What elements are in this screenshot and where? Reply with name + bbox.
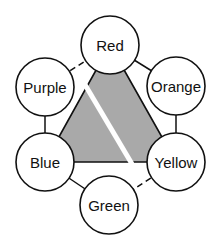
color-wheel-diagram: RedOrangeYellowGreenBluePurple: [0, 0, 216, 247]
node-label-orange: Orange: [151, 78, 201, 95]
node-blue: Blue: [16, 133, 74, 191]
node-purple: Purple: [16, 58, 74, 116]
node-green: Green: [80, 176, 138, 234]
node-red: Red: [81, 16, 139, 74]
node-label-blue: Blue: [30, 154, 60, 171]
node-label-green: Green: [88, 197, 130, 214]
node-yellow: Yellow: [147, 133, 205, 191]
node-label-red: Red: [96, 37, 124, 54]
node-label-yellow: Yellow: [155, 154, 198, 171]
node-label-purple: Purple: [23, 79, 66, 96]
node-orange: Orange: [147, 57, 205, 115]
